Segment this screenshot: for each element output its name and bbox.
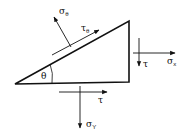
tau-right-label: τ [143,59,148,69]
tau-theta-label: τθ [81,23,90,34]
sigma-theta-arrow [54,17,71,47]
sigma-theta-label: σθ [59,6,69,17]
triangle-element [15,21,129,84]
sigma-y-label: σY [86,119,96,130]
sigma-x-label: σx [167,56,176,67]
angle-label: θ [41,71,46,81]
stress-diagram: θ σθ τθ σx τ τ σY [0,0,188,133]
angle-arc [50,64,52,83]
tau-bottom-label: τ [98,95,103,105]
